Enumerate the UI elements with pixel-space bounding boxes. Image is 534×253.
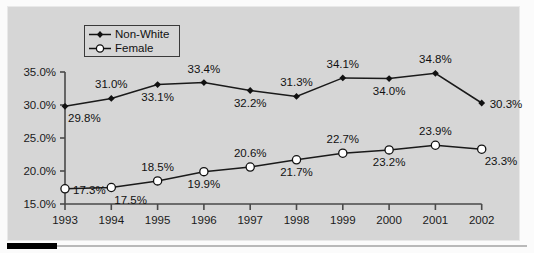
x-axis-label: 1997 (237, 214, 263, 226)
data-point-non-white-1996 (201, 79, 208, 86)
data-label-female-1998: 21.7% (280, 166, 313, 178)
data-point-female-1999 (339, 149, 347, 157)
x-axis-label: 1994 (99, 214, 125, 226)
open-circle-marker-icon (85, 41, 115, 56)
x-axis-label: 1998 (284, 214, 310, 226)
data-label-non-white-1994: 31.0% (95, 78, 128, 90)
data-point-female-1998 (292, 156, 300, 164)
chart-figure: 35.0%30.0%25.0%20.0%15.0%199319941995199… (0, 0, 534, 253)
data-label-female-1996: 19.9% (188, 178, 221, 190)
x-axis-label: 2002 (469, 214, 495, 226)
x-axis-label: 1993 (52, 214, 78, 226)
x-axis-label: 1999 (330, 214, 356, 226)
data-label-non-white-1998: 31.3% (280, 76, 313, 88)
filled-diamond-marker-icon (85, 27, 115, 42)
data-label-non-white-1999: 34.1% (326, 58, 359, 70)
data-label-non-white-2002: 30.3% (490, 98, 523, 110)
data-label-female-1999: 22.7% (326, 133, 359, 145)
data-label-female-1997: 20.6% (234, 147, 267, 159)
data-point-female-2002 (478, 145, 486, 153)
data-label-non-white-1993: 29.8% (68, 112, 101, 124)
y-axis-label: 15.0% (23, 198, 56, 210)
footer-rule-accent (7, 243, 57, 249)
data-point-female-1995 (154, 177, 162, 185)
footer-rule (57, 245, 527, 247)
x-axis-label: 1995 (145, 214, 171, 226)
data-label-non-white-2001: 34.8% (419, 53, 452, 65)
data-label-non-white-1995: 33.1% (141, 91, 174, 103)
legend-entry-non-white: Non-White (85, 27, 181, 42)
legend-label-non-white: Non-White (115, 27, 169, 42)
legend-label-female: Female (115, 41, 153, 56)
x-axis-label: 2000 (376, 214, 402, 226)
data-point-female-1996 (200, 168, 208, 176)
data-label-female-2000: 23.2% (373, 156, 406, 168)
data-point-non-white-1998 (293, 93, 300, 100)
data-point-non-white-1995 (154, 81, 161, 88)
data-point-female-1994 (107, 183, 115, 191)
data-point-non-white-2000 (386, 75, 393, 82)
data-label-non-white-2000: 34.0% (373, 85, 406, 97)
data-point-female-1993 (61, 185, 69, 193)
data-label-female-1994: 17.5% (114, 194, 147, 206)
data-label-female-2001: 23.9% (419, 125, 452, 137)
y-axis-label: 20.0% (23, 165, 56, 177)
y-axis-label: 25.0% (23, 132, 56, 144)
data-point-female-1997 (246, 163, 254, 171)
data-point-non-white-1993 (62, 103, 69, 110)
x-axis-label: 2001 (423, 214, 449, 226)
legend-entry-female: Female (85, 41, 181, 56)
series-line-female (65, 145, 482, 189)
data-label-female-2002: 23.3% (485, 155, 518, 167)
data-label-female-1995: 18.5% (141, 161, 174, 173)
chart-axes (65, 72, 482, 204)
data-label-non-white-1996: 33.4% (188, 63, 221, 75)
y-axis-label: 35.0% (23, 66, 56, 78)
data-label-non-white-1997: 32.2% (234, 97, 267, 109)
line-chart-svg: 35.0%30.0%25.0%20.0%15.0%199319941995199… (0, 0, 534, 253)
data-point-non-white-1994 (108, 95, 115, 102)
x-axis-label: 1996 (191, 214, 217, 226)
data-point-female-2001 (431, 141, 439, 149)
y-axis-label: 30.0% (23, 99, 56, 111)
data-point-non-white-1997 (247, 87, 254, 94)
data-label-female-1993: 17.3% (73, 184, 106, 196)
chart-legend: Non-White Female (84, 25, 180, 57)
data-point-female-2000 (385, 146, 393, 154)
data-point-non-white-1999 (339, 75, 346, 82)
